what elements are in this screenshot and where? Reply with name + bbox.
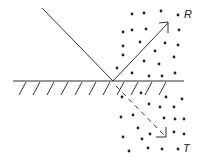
scatterer-dot bbox=[177, 44, 180, 47]
scatterer-dot bbox=[148, 103, 151, 106]
scatterer-dot bbox=[181, 98, 184, 101]
scatterer-dot bbox=[158, 63, 161, 66]
scatterer-dot bbox=[161, 148, 164, 151]
scatterer-dot bbox=[164, 42, 167, 45]
surface-hatching bbox=[19, 82, 166, 95]
scatterer-dot bbox=[174, 118, 177, 121]
hatch-mark bbox=[103, 82, 110, 95]
scatterer-dot bbox=[160, 10, 163, 13]
diagram-canvas: R T bbox=[0, 0, 200, 161]
hatch-mark bbox=[159, 82, 166, 95]
scatterer-dot bbox=[177, 14, 180, 17]
scatterer-dot bbox=[131, 13, 134, 16]
scatterer-dot bbox=[122, 54, 125, 57]
scatterer-dot bbox=[131, 29, 134, 32]
scatterer-dot bbox=[174, 72, 177, 75]
scatterer-dot bbox=[128, 150, 131, 153]
scatterer-dot bbox=[177, 148, 180, 151]
incident-ray bbox=[42, 8, 113, 81]
label-reflected: R bbox=[184, 8, 192, 20]
scatterer-dot bbox=[137, 127, 140, 130]
hatch-mark bbox=[61, 82, 68, 95]
hatch-mark bbox=[145, 82, 152, 95]
scatterer-dot bbox=[139, 41, 142, 44]
hatch-mark bbox=[33, 82, 40, 95]
scatterer-dot bbox=[132, 114, 135, 117]
scatterer-dot bbox=[122, 31, 125, 34]
scatterer-dot bbox=[173, 56, 176, 59]
hatch-mark bbox=[47, 82, 54, 95]
scatterer-dot bbox=[173, 106, 176, 109]
scatterer-dot bbox=[161, 75, 164, 78]
hatch-mark bbox=[75, 82, 82, 95]
scatterer-dot bbox=[165, 96, 168, 99]
scatterer-dot bbox=[163, 117, 166, 120]
scatterer-dot bbox=[143, 60, 146, 63]
reflected-ray bbox=[113, 23, 168, 81]
scatterer-dot bbox=[141, 138, 144, 141]
hatch-mark bbox=[89, 82, 96, 95]
scatterer-dot bbox=[159, 106, 162, 109]
label-transmitted: T bbox=[183, 142, 191, 154]
scatterer-dot bbox=[183, 133, 186, 136]
scatterer-dot bbox=[140, 92, 143, 95]
scatterer-dot bbox=[121, 96, 124, 99]
scatterer-dot bbox=[173, 131, 176, 134]
scatterer-dot bbox=[116, 67, 119, 70]
scatterer-dot bbox=[145, 28, 148, 31]
scatterer-dot bbox=[154, 50, 157, 53]
scatterer-dot bbox=[143, 12, 146, 15]
scatterer-dot bbox=[131, 72, 134, 75]
scatterer-dot bbox=[122, 136, 125, 139]
hatch-mark bbox=[19, 82, 26, 95]
scatterer-dot bbox=[122, 45, 125, 48]
scatterer-dot bbox=[148, 75, 151, 78]
scatterer-dot bbox=[120, 116, 123, 119]
scatterer-dot bbox=[147, 147, 150, 150]
hatch-mark bbox=[131, 82, 138, 95]
reflection-transmission-diagram: R T bbox=[0, 0, 200, 161]
scatterer-dot bbox=[183, 118, 186, 121]
scatterer-dot bbox=[149, 133, 152, 136]
scatterer-dot bbox=[178, 29, 181, 32]
